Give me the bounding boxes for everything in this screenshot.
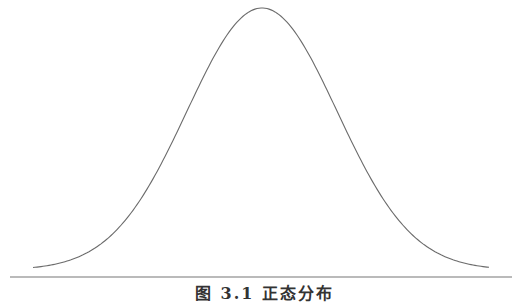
bell-curve [33, 8, 489, 268]
figure-caption: 图 3.1 正态分布 [0, 285, 529, 303]
